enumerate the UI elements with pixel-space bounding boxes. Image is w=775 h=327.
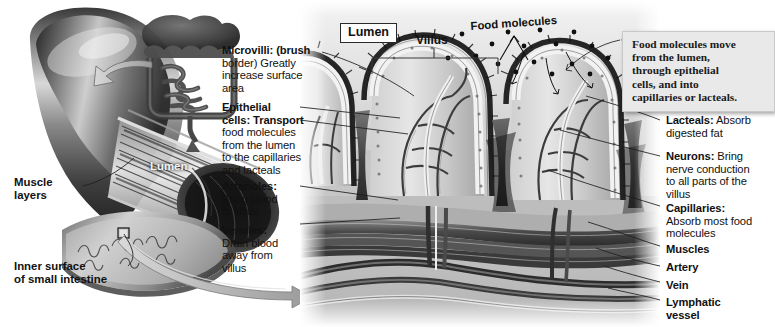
label-muscles: Muscles <box>666 243 709 256</box>
label-capillaries: Capillaries: Absorb most food molecules <box>666 202 770 240</box>
label-venules: Venules: Drain blood away from villus <box>222 224 332 274</box>
label-lacteals: Lacteals:Lacteals: Absorb Absorb digeste… <box>666 114 770 139</box>
label-microvilli: Microvilli: (brush border) Greatly incre… <box>222 44 342 94</box>
label-artery: Artery <box>666 261 698 274</box>
label-vein: Vein <box>666 279 689 292</box>
lumen-label-box: Lumen <box>340 23 397 43</box>
villus-label: Villus <box>416 34 448 47</box>
lumen-label-illustration: Lumen <box>150 160 187 173</box>
label-arterioles: Arterioles: Bring blood to villus <box>222 180 332 218</box>
label-lymphatic-vessel: Lymphatic vessel <box>666 296 721 321</box>
label-neurons: Neurons: Bring nerve conduction to all p… <box>666 150 770 200</box>
inner-surface-label: Inner surface of small intestine <box>14 260 107 285</box>
muscle-layers-label: Muscle layers <box>14 176 53 201</box>
callout-food-molecule-pathway: Food molecules move from the lumen, thro… <box>622 31 775 112</box>
label-epithelial-cells: Epithelial cells: Transport food molecul… <box>222 101 344 177</box>
